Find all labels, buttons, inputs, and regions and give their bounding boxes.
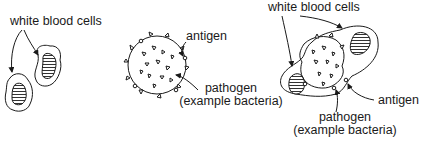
white-blood-cell-upper bbox=[35, 45, 61, 86]
arrow-icon bbox=[300, 16, 342, 28]
arrow-icon bbox=[24, 30, 38, 55]
label-antigen: antigen bbox=[186, 30, 227, 43]
label-white-blood-cells-engulfing: white blood cells bbox=[268, 1, 360, 14]
white-blood-cell-lower bbox=[5, 74, 32, 111]
arrow-icon bbox=[282, 16, 292, 66]
arrow-icon bbox=[348, 84, 374, 100]
label-antigen-engulfing: antigen bbox=[378, 94, 419, 107]
label-pathogen-example-engulfing: (example bacteria) bbox=[290, 124, 400, 137]
arrow-icon bbox=[11, 30, 22, 72]
label-pathogen-example: (example bacteria) bbox=[176, 95, 286, 108]
label-white-blood-cells: white blood cells bbox=[10, 15, 102, 28]
arrow-icon bbox=[336, 90, 338, 112]
engulfed-pathogen bbox=[300, 33, 348, 90]
